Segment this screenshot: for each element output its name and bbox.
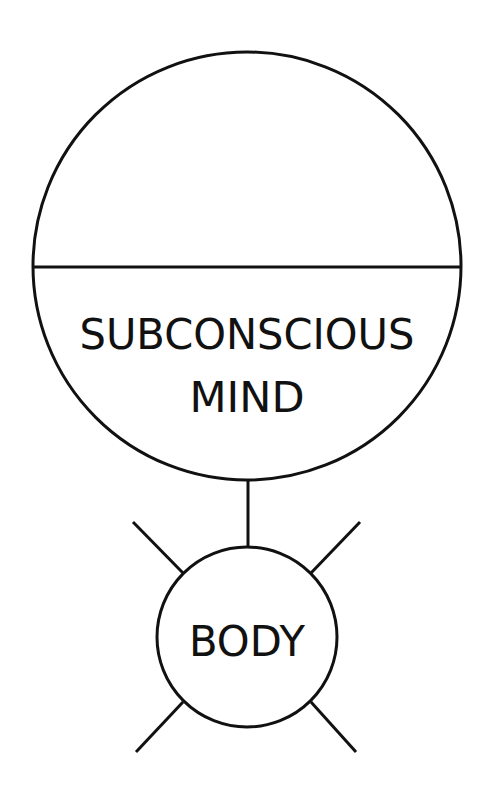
body-spoke-bottom-left xyxy=(136,702,183,752)
body-spoke-bottom-right xyxy=(311,702,356,752)
body-label: BODY xyxy=(189,616,306,666)
mind-label-line1: SUBCONSCIOUS xyxy=(80,309,415,359)
diagram-canvas: SUBCONSCIOUS MIND BODY xyxy=(0,0,482,799)
body-spoke-top-left xyxy=(133,522,183,573)
body-spoke-top-right xyxy=(311,522,360,573)
mind-label-line2: MIND xyxy=(189,372,304,422)
